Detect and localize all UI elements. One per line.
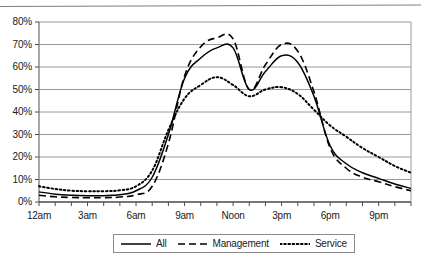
x-axis-tick-label: 6am [111,211,161,221]
x-axis-tick-label: 6pm [305,211,355,221]
chart-page: 0%10%20%30%40%50%60%70%80% 12am3am6am9am… [0,0,421,260]
legend-swatch-dashed [178,240,208,248]
legend-label: Service [315,239,347,249]
legend-item-service[interactable]: Service [280,239,347,249]
x-axis-tick-label: 3am [63,211,113,221]
x-axis-tick-label: 12am [14,211,64,221]
chart-legend: AllManagementService [113,234,355,253]
y-axis-tick-label: 30% [0,130,32,140]
legend-swatch-dotted [280,240,310,248]
y-axis-tick-label: 80% [0,17,32,27]
legend-item-management[interactable]: Management [178,239,269,249]
y-axis-tick-label: 50% [0,85,32,95]
y-axis-tick-label: 10% [0,175,32,185]
line-chart: 0%10%20%30%40%50%60%70%80% 12am3am6am9am… [0,0,421,260]
y-axis-tick-label: 60% [0,62,32,72]
y-axis-tick-label: 40% [0,107,32,117]
y-axis-tick-label: 0% [0,197,32,207]
legend-swatch-solid [121,240,151,248]
legend-item-all[interactable]: All [121,239,167,249]
x-axis-tick-label: 9pm [354,211,404,221]
x-axis-tick-label: 9am [160,211,210,221]
legend-label: All [156,239,167,249]
y-axis-tick-label: 20% [0,152,32,162]
gridlines [35,22,411,202]
legend-label: Management [213,239,269,249]
x-axis-tick-label: 3pm [257,211,307,221]
x-axis-tick-label: Noon [208,211,258,221]
data-series-group [39,34,411,198]
y-axis-tick-label: 70% [0,40,32,50]
chart-plot-svg [0,0,421,260]
series-line-management [39,34,411,198]
x-axis-ticks [39,202,411,206]
